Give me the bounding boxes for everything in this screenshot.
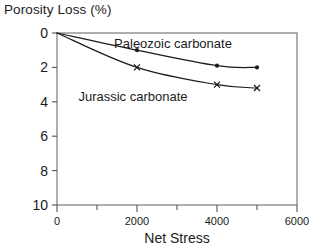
series-annotation-1: Paleozoic carbonate [114, 36, 232, 51]
y-tick-label: 6 [40, 128, 48, 144]
y-axis-ticks [52, 33, 57, 205]
plot-area: 0246810 0200040006000 Paleozoic carbonat… [0, 0, 324, 252]
series-annotation-2: Jurassic carbonate [78, 89, 187, 104]
x-tick-label: 4000 [205, 215, 229, 227]
y-tick-label: 8 [40, 163, 48, 179]
y-tick-label: 10 [32, 197, 48, 213]
x-tick-label: 0 [54, 215, 60, 227]
x-axis-title: Net Stress [144, 230, 209, 246]
x-tick-label: 2000 [125, 215, 149, 227]
chart-figure: Porosity Loss (%) 0246810 0200040006000 … [0, 0, 324, 252]
x-axis-tick-labels: 0200040006000 [54, 215, 309, 227]
y-tick-label: 4 [40, 94, 48, 110]
data-point-marker [255, 65, 259, 69]
y-tick-label: 0 [40, 25, 48, 41]
y-tick-label: 2 [40, 59, 48, 75]
data-point-marker [215, 64, 219, 68]
x-tick-label: 6000 [285, 215, 309, 227]
x-axis-ticks [57, 205, 297, 212]
y-axis-tick-labels: 0246810 [32, 25, 48, 213]
